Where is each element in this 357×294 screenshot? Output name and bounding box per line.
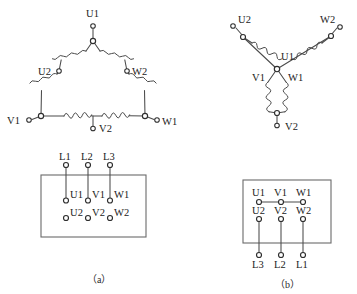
- box-a-label-w2: W2: [114, 207, 130, 218]
- caption-b: （b）: [275, 279, 300, 290]
- star-terminal-v2[interactable]: [275, 123, 280, 128]
- delta-coil-w-upper: [100, 50, 134, 59]
- delta-label-v1: V1: [7, 115, 20, 126]
- delta-terminal-u2[interactable]: [57, 69, 62, 74]
- box-b-label-v1: V1: [274, 187, 287, 198]
- motor-connection-figure: U1 U2 W2 V1 V2 W1 U2: [0, 0, 357, 294]
- caption-a: （a）: [87, 274, 111, 285]
- star-label-u2: U2: [238, 14, 251, 25]
- box-b-label-l3: L3: [252, 259, 264, 270]
- star-node-w2-inner[interactable]: [329, 34, 334, 39]
- box-b-terminal-w1[interactable]: [301, 200, 306, 205]
- delta-label-u2: U2: [38, 66, 51, 77]
- delta-node-v1-corner[interactable]: [38, 113, 43, 118]
- box-b-label-w1: W1: [296, 187, 312, 198]
- box-a-label-u1: U1: [70, 189, 83, 200]
- box-b-label-u1: U1: [252, 187, 265, 198]
- box-a-label-u2: U2: [70, 207, 83, 218]
- box-a-terminal-u2[interactable]: [64, 216, 69, 221]
- box-b-terminal-l3[interactable]: [257, 253, 262, 258]
- box-b-label-l1: L1: [296, 259, 308, 270]
- box-b-label-w2: W2: [296, 205, 312, 216]
- delta-label-w2: W2: [132, 66, 148, 77]
- delta-terminal-v2[interactable]: [91, 126, 96, 131]
- delta-coil-v-left: [64, 113, 92, 119]
- box-b-terminal-u2[interactable]: [257, 217, 262, 222]
- delta-label-w1: W1: [162, 116, 178, 127]
- box-a-terminal-l1[interactable]: [64, 163, 69, 168]
- box-a-terminal-u1[interactable]: [64, 198, 69, 203]
- delta-node-apex[interactable]: [90, 38, 95, 43]
- star-coil-u: [252, 42, 282, 60]
- star-label-u1: U1: [281, 51, 294, 62]
- star-label-w2: W2: [320, 14, 336, 25]
- star-schematic-group: U2 W2 U1 V1 W1 V2: [231, 14, 343, 132]
- box-b-label-l2: L2: [274, 259, 286, 270]
- delta-schematic-group: U1 U2 W2 V1 V2 W1: [7, 8, 178, 134]
- box-a-label-l1: L1: [59, 151, 71, 162]
- box-a-terminal-w2[interactable]: [108, 216, 113, 221]
- box-b-terminal-v2[interactable]: [279, 217, 284, 222]
- box-a-terminal-w1[interactable]: [108, 198, 113, 203]
- delta-terminal-u1[interactable]: [91, 24, 96, 29]
- delta-coil-v-right: [102, 113, 130, 119]
- box-b-label-v2: V2: [274, 205, 287, 216]
- star-node-v2-inner[interactable]: [275, 111, 280, 116]
- delta-label-v2: V2: [99, 123, 112, 134]
- box-a-label-l3: L3: [103, 151, 115, 162]
- star-node-neutral-point[interactable]: [274, 66, 279, 71]
- delta-terminal-w1[interactable]: [155, 118, 160, 123]
- terminal-box-b-group: U1 V1 W1 U2 V2 W2 L3 L2 L1 （b）: [243, 180, 331, 290]
- star-terminal-u2[interactable]: [231, 24, 236, 29]
- box-b-terminal-u1[interactable]: [257, 200, 262, 205]
- delta-node-w1-corner[interactable]: [142, 113, 147, 118]
- box-b-terminal-v1[interactable]: [279, 200, 284, 205]
- delta-terminal-w2[interactable]: [125, 69, 130, 74]
- box-a-terminal-l3[interactable]: [108, 163, 113, 168]
- star-terminal-w2[interactable]: [338, 25, 343, 30]
- box-a-outline: [41, 175, 146, 237]
- star-label-v2: V2: [285, 121, 298, 132]
- box-a-label-v1: V1: [92, 189, 105, 200]
- delta-terminal-v1[interactable]: [27, 118, 32, 123]
- delta-coil-u-upper: [52, 50, 86, 59]
- box-a-terminal-v1[interactable]: [86, 198, 91, 203]
- box-a-label-w1: W1: [114, 189, 130, 200]
- box-b-terminal-l1[interactable]: [301, 253, 306, 258]
- box-a-terminal-l2[interactable]: [86, 163, 91, 168]
- star-coil-v-right: [283, 82, 289, 112]
- box-a-label-v2: V2: [92, 207, 105, 218]
- delta-label-u1: U1: [86, 8, 99, 19]
- terminal-box-a-group: L1 L2 L3 U1 V1 W1 U2 V2 W2 （a）: [41, 151, 146, 285]
- box-a-terminal-v2[interactable]: [86, 216, 91, 221]
- figure-canvas: U1 U2 W2 V1 V2 W1 U2: [0, 0, 357, 294]
- box-a-label-l2: L2: [81, 151, 93, 162]
- star-label-v1: V1: [252, 72, 265, 83]
- box-b-terminal-w2[interactable]: [301, 217, 306, 222]
- star-coil-v-left: [266, 82, 272, 112]
- star-label-w1: W1: [288, 72, 304, 83]
- box-b-terminal-l2[interactable]: [279, 253, 284, 258]
- star-node-u2-inner[interactable]: [241, 35, 246, 40]
- box-b-label-u2: U2: [252, 205, 265, 216]
- star-u2-chord: [243, 37, 277, 69]
